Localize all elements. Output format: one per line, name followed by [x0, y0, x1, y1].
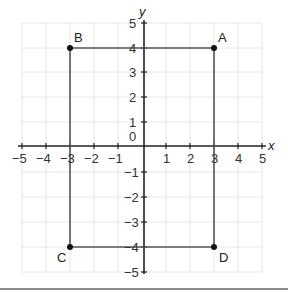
grid [22, 23, 262, 272]
axis-ticks [22, 23, 262, 272]
svg-text:1: 1 [163, 151, 170, 166]
svg-text:3: 3 [129, 65, 136, 80]
point-d [211, 244, 217, 250]
svg-text:−1: −1 [124, 165, 139, 180]
svg-text:−5: −5 [12, 151, 27, 166]
svg-text:−4: −4 [124, 240, 139, 255]
svg-text:1: 1 [129, 115, 136, 130]
x-axis-label: x [267, 138, 275, 153]
axes [18, 20, 266, 274]
svg-text:−2: −2 [84, 151, 99, 166]
y-tick-labels: 5 4 3 2 1 0 −1 −2 −3 −4 −5 [124, 16, 139, 280]
rectangle-abcd [70, 48, 214, 247]
svg-text:2: 2 [129, 90, 136, 105]
svg-text:0: 0 [129, 129, 136, 144]
label-c: C [57, 250, 66, 265]
svg-text:5: 5 [259, 151, 266, 166]
svg-text:−5: −5 [124, 265, 139, 280]
svg-text:4: 4 [235, 151, 242, 166]
label-a: A [218, 30, 227, 45]
x-tick-labels: −5 −4 −3 −2 −1 1 2 3 4 5 [12, 151, 266, 166]
svg-text:−1: −1 [108, 151, 123, 166]
y-axis-label: y [138, 4, 147, 19]
svg-text:5: 5 [129, 16, 136, 31]
label-b: B [74, 30, 83, 45]
svg-text:4: 4 [129, 41, 136, 56]
svg-text:−2: −2 [124, 190, 139, 205]
svg-text:2: 2 [187, 151, 194, 166]
svg-text:−3: −3 [124, 215, 139, 230]
coordinate-plane: A B C D y x −5 −4 −3 −2 −1 1 2 3 4 5 5 4… [0, 0, 288, 296]
point-a [211, 45, 217, 51]
svg-text:−4: −4 [36, 151, 51, 166]
svg-text:−3: −3 [60, 151, 75, 166]
point-c [67, 244, 73, 250]
label-d: D [219, 250, 228, 265]
point-b [67, 45, 73, 51]
svg-text:3: 3 [211, 151, 218, 166]
